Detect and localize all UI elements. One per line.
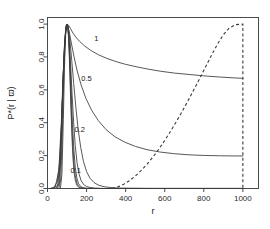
- x-tick-label: 200: [80, 194, 94, 203]
- series-1: [49, 24, 242, 188]
- x-tick-label: 600: [158, 194, 172, 203]
- y-tick-label: 0.0: [37, 182, 46, 194]
- plot-frame: [48, 18, 259, 189]
- y-tick-label: 0.2: [37, 150, 46, 162]
- y-tick-label: 0.6: [37, 84, 46, 96]
- curve-label-0.2: 0.2: [75, 125, 85, 134]
- x-tick-label: 0: [45, 194, 50, 203]
- y-tick-label: 1.0: [37, 18, 46, 30]
- chart-canvas: 0.00.20.40.60.81.002004006008001000rP*(r…: [0, 0, 270, 229]
- curve-label-0.5: 0.5: [81, 74, 91, 83]
- series-prior: [112, 24, 243, 188]
- curve-label-1: 1: [94, 34, 98, 43]
- y-tick-label: 0.8: [37, 51, 46, 63]
- chart-figure: 0.00.20.40.60.81.002004006008001000rP*(r…: [0, 0, 270, 229]
- x-axis-title: r: [152, 206, 155, 216]
- series-narrow-3: [57, 24, 243, 188]
- x-tick-label: 1000: [234, 194, 252, 203]
- y-axis-title: P*(r | ϖ): [6, 87, 16, 120]
- x-tick-label: 800: [197, 194, 211, 203]
- series-narrow-2: [59, 24, 243, 188]
- series-0.5: [50, 24, 242, 188]
- curve-label-0.1: 0.1: [71, 166, 81, 175]
- x-tick-label: 400: [119, 194, 133, 203]
- y-tick-label: 0.4: [37, 117, 46, 129]
